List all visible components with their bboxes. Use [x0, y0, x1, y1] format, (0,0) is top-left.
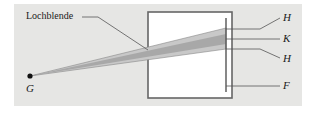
label-core-shadow: K	[282, 32, 291, 44]
label-object-point: G	[26, 82, 34, 94]
label-half-shadow-bottom: H	[282, 52, 292, 64]
object-point	[27, 73, 32, 78]
label-screen: F	[282, 79, 290, 91]
label-half-shadow-top: H	[282, 11, 292, 23]
label-pinhole: Lochblende	[26, 10, 74, 21]
pinhole-camera-diagram: G Lochblende H K H F	[0, 0, 311, 114]
